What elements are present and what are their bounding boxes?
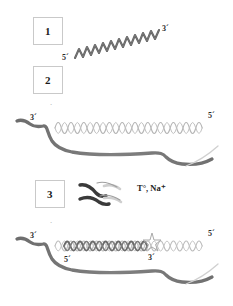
- panel1-five-prime-label: 5´: [62, 53, 69, 62]
- panel2-target-strand: [17, 120, 218, 166]
- panel1-probe-strand: [75, 30, 159, 58]
- diagram-graphics: [0, 0, 233, 306]
- panel3-annealed-duplex: [17, 233, 218, 284]
- faint-tick-mark-upper: ´: [50, 103, 52, 109]
- step-box-1: 1: [33, 17, 63, 45]
- panel2-five-prime-label: 5´: [208, 111, 215, 120]
- panel3-duplex-five-prime-label: 5´: [64, 255, 71, 264]
- faint-tick-mark-lower: ´: [50, 221, 52, 227]
- panel3-five-prime-label: 5´: [208, 229, 215, 238]
- panel2-three-prime-label: 3´: [30, 113, 37, 122]
- panel3-duplex-three-prime-label: 3´: [148, 253, 155, 262]
- step-box-2: 2: [33, 66, 63, 94]
- panel1-three-prime-label: 3´: [162, 24, 169, 33]
- star-marker: [143, 233, 161, 251]
- panel3-three-prime-label: 3´: [30, 231, 37, 240]
- annealing-ribbons-icon: [80, 182, 121, 204]
- step-box-3: 3: [35, 180, 65, 208]
- annealing-condition-label: T°, Na⁺: [137, 183, 166, 193]
- figure-canvas: 1 2 3 5´ 3´ 3´ 5´ T°, Na⁺ 3´ 5´ 5´ 3´ ´ …: [0, 0, 233, 306]
